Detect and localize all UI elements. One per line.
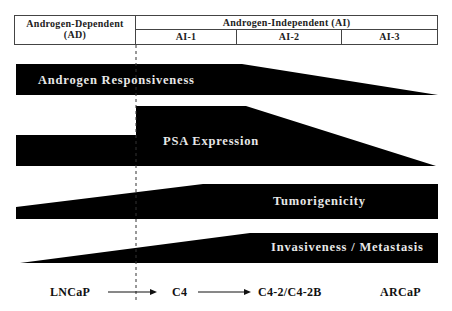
tumorigenicity-bar <box>16 184 438 219</box>
cell-line-lncap: LNCaP <box>50 285 90 299</box>
cell-line-c4: C4 <box>172 285 187 299</box>
androgen-responsiveness-label: Androgen Responsiveness <box>38 73 195 87</box>
diagram-shapes <box>0 0 452 311</box>
arrow-c4-to-c4-2 <box>198 289 251 295</box>
arrow-lncap-to-c4 <box>108 289 157 295</box>
tumorigenicity-label: Tumorigenicity <box>273 194 366 208</box>
invasiveness-metastasis-label: Invasiveness / Metastasis <box>271 240 424 254</box>
cell-line-c4-2: C4-2/C4-2B <box>258 285 322 299</box>
cell-line-arcap: ARCaP <box>380 285 421 299</box>
psa-expression-label: PSA Expression <box>163 134 259 148</box>
